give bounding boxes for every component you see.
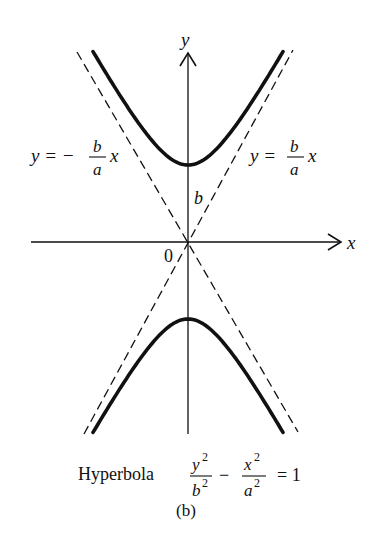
equation-term2-denominator: a [244, 481, 253, 500]
x-axis-label: x [346, 232, 356, 253]
asymptote-right-numerator: b [290, 137, 299, 156]
asymptote-left-denominator: a [93, 160, 102, 179]
asymptote-right-variable: x [307, 145, 317, 166]
asymptote-right-denominator: a [290, 160, 299, 179]
equation-term1-num-exponent: 2 [202, 450, 208, 464]
hyperbola-diagram: y x 0 b y = − b a x y = b a x Hyperbola [0, 0, 381, 535]
equation-term1-numerator: y [190, 455, 200, 474]
y-axis-label: y [179, 29, 190, 50]
origin-label: 0 [164, 246, 173, 266]
equation-term2-numerator: x [243, 455, 252, 474]
equation-term2-num-exponent: 2 [254, 450, 260, 464]
asymptote-left-variable: x [109, 145, 119, 166]
equation-equals-one: = 1 [277, 465, 301, 485]
asymptote-right-label: y = b a x [248, 137, 317, 179]
asymptote-right-lhs: y = [248, 145, 276, 166]
equation-title: Hyperbola [78, 464, 154, 484]
figure-caption: (b) [176, 501, 196, 520]
asymptote-left-lhs: y = − [29, 145, 75, 166]
equation-term2-den-exponent: 2 [254, 476, 260, 490]
asymptote-left-numerator: b [93, 137, 102, 156]
equation-term1-den-exponent: 2 [202, 476, 208, 490]
vertex-distance-label: b [194, 188, 203, 208]
equation-minus: − [219, 465, 229, 485]
hyperbola-equation: Hyperbola y 2 b 2 − x 2 a 2 = 1 [78, 450, 301, 500]
asymptote-left-label: y = − b a x [29, 137, 119, 179]
hyperbola-figure: y x 0 b y = − b a x y = b a x Hyperbola [0, 0, 381, 535]
equation-term1-denominator: b [192, 481, 201, 500]
